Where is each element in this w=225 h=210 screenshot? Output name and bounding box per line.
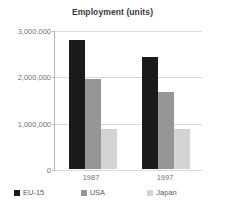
legend-label: EU-15 xyxy=(23,188,44,197)
bar-japan-1987 xyxy=(101,129,117,169)
legend-item-japan[interactable]: Japan xyxy=(147,188,214,197)
bar-eu-15-1997 xyxy=(142,57,158,169)
y-axis-tick-mark xyxy=(52,31,55,32)
legend-item-eu-15[interactable]: EU-15 xyxy=(14,188,81,197)
bar-group-1997 xyxy=(129,31,202,169)
plot-frame: 01,000,0002,000,0003,000,000 xyxy=(54,31,202,171)
legend-label: Japan xyxy=(156,188,176,197)
plot-area: 01,000,0002,000,0003,000,000 xyxy=(54,31,202,171)
x-axis-tick-label-1987: 1987 xyxy=(54,173,128,182)
legend-swatch-icon xyxy=(147,190,153,196)
y-axis-tick-label: 1,000,000 xyxy=(18,119,51,128)
chart-title: Employment (units) xyxy=(0,7,225,17)
y-axis-tick-mark xyxy=(52,77,55,78)
bar-usa-1997 xyxy=(158,92,174,169)
x-axis-tick-label-1997: 1997 xyxy=(128,173,202,182)
y-axis-tick-label: 0 xyxy=(47,166,51,175)
y-axis-tick-mark xyxy=(52,124,55,125)
bars-layer xyxy=(56,31,202,169)
legend-swatch-icon xyxy=(81,190,87,196)
bar-chart: Employment (units) 01,000,0002,000,0003,… xyxy=(0,0,225,210)
y-axis-tick-label: 3,000,000 xyxy=(18,27,51,36)
y-axis-tick-label: 2,000,000 xyxy=(18,73,51,82)
legend-label: USA xyxy=(90,188,105,197)
bar-japan-1997 xyxy=(174,129,190,169)
bar-usa-1987 xyxy=(85,79,101,169)
bar-eu-15-1987 xyxy=(69,40,85,169)
x-axis-labels: 19871997 xyxy=(54,173,202,182)
legend-swatch-icon xyxy=(14,190,20,196)
bar-group-1987 xyxy=(56,31,129,169)
legend-item-usa[interactable]: USA xyxy=(81,188,148,197)
gridline xyxy=(55,170,202,171)
chart-legend: EU-15USAJapan xyxy=(14,188,214,197)
y-axis-tick-mark xyxy=(52,170,55,171)
